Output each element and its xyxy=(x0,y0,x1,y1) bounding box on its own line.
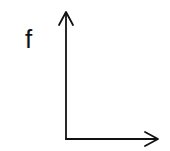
axes-svg xyxy=(0,0,170,151)
axes-diagram: f xyxy=(0,0,170,151)
y-axis-label: f xyxy=(25,26,32,52)
